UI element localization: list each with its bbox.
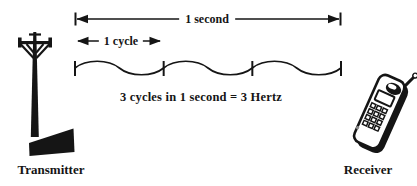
receiver-label: Receiver xyxy=(344,162,392,178)
transmitter-label: Transmitter xyxy=(18,162,85,178)
sine-wave-path xyxy=(75,61,341,75)
one-second-label: 1 second xyxy=(179,12,235,27)
frequency-caption: 3 cycles in 1 second = 3 Hertz xyxy=(120,90,282,105)
one-cycle-label: 1 cycle xyxy=(99,34,143,49)
arrowhead-right-icon xyxy=(150,37,162,46)
arrowhead-left-icon xyxy=(77,15,89,24)
receiver-phone-icon xyxy=(349,60,417,157)
arrowhead-left-icon xyxy=(77,37,89,46)
arrowhead-right-icon xyxy=(328,15,340,24)
transmitter-tower-icon xyxy=(18,32,75,156)
frequency-diagram: 1 second 1 cycle 3 cycles in 1 second = … xyxy=(0,0,417,186)
wave-3-cycles xyxy=(75,61,341,76)
